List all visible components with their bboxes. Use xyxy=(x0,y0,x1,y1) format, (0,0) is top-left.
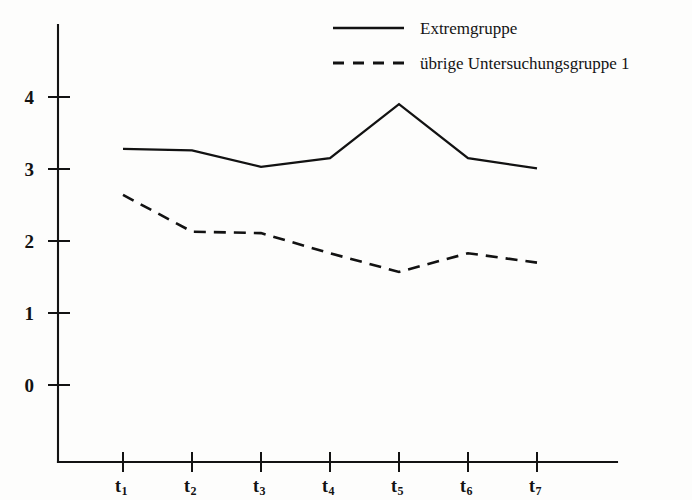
x-tick-label-t7-sub: 7 xyxy=(536,484,542,498)
series-line-extremgruppe xyxy=(123,104,537,168)
x-tick-label-t1-sub: 1 xyxy=(122,484,128,498)
x-tick-label-t1: t1 xyxy=(115,477,127,495)
chart-canvas xyxy=(0,0,692,500)
legend-label-uebrige-untersuchungsgruppe: übrige Untersuchungsgruppe 1 xyxy=(420,55,630,72)
x-tick-label-t3: t3 xyxy=(253,477,265,495)
x-tick-label-t6: t6 xyxy=(460,477,472,495)
x-tick-label-t2-sub: 2 xyxy=(191,484,197,498)
x-tick-label-t4-sub: 4 xyxy=(329,484,335,498)
x-tick-label-t1-base: t xyxy=(115,476,121,496)
x-tick-label-t6-base: t xyxy=(460,476,466,496)
series-line-uebrige-untersuchungsgruppe xyxy=(123,195,537,272)
x-tick-label-t2-base: t xyxy=(184,476,190,496)
y-tick-label-3: 3 xyxy=(12,160,34,179)
x-tick-label-t6-sub: 6 xyxy=(467,484,473,498)
x-tick-label-t5-sub: 5 xyxy=(398,484,404,498)
y-tick-label-2: 2 xyxy=(12,232,34,251)
x-tick-label-t5: t5 xyxy=(391,477,403,495)
legend-label-extremgruppe: Extremgruppe xyxy=(420,20,517,37)
y-tick-label-1: 1 xyxy=(12,304,34,323)
x-tick-label-t7: t7 xyxy=(529,477,541,495)
y-tick-label-0: 0 xyxy=(12,376,34,395)
x-tick-label-t3-base: t xyxy=(253,476,259,496)
x-tick-label-t7-base: t xyxy=(529,476,535,496)
x-tick-label-t5-base: t xyxy=(391,476,397,496)
line-chart: 4 3 2 1 0 t1 t2 t3 t4 t5 t6 t7 Extremgru… xyxy=(0,0,692,500)
x-tick-label-t3-sub: 3 xyxy=(260,484,266,498)
y-tick-label-4: 4 xyxy=(12,88,34,107)
x-tick-label-t4: t4 xyxy=(322,477,334,495)
x-tick-label-t2: t2 xyxy=(184,477,196,495)
x-tick-label-t4-base: t xyxy=(322,476,328,496)
